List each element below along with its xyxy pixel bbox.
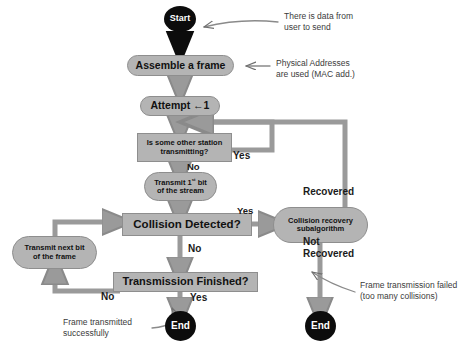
node-end-success[interactable]: End: [165, 311, 196, 341]
edge-label-finished-no: No: [101, 291, 114, 302]
annotation-assemble-note-line1: Physical Addresses: [276, 58, 355, 69]
node-attempt-label: Attempt ←1: [151, 100, 210, 111]
node-transmit-next-bit[interactable]: Transmit next bit of the frame: [12, 236, 97, 269]
edge-label-recovered: Recovered: [303, 186, 354, 197]
annotation-success-note-line2: successfully: [63, 328, 132, 339]
node-assemble-frame[interactable]: Assemble a frame: [127, 55, 234, 76]
node-transmit-first-bit-line2: of the stream: [157, 187, 204, 195]
node-assemble-frame-label: Assemble a frame: [136, 60, 226, 71]
edge-label-station-no: No: [187, 161, 200, 172]
node-transmission-finished-label: Transmission Finished?: [123, 276, 249, 288]
annotation-failure-note: Frame transmission failed (too many coll…: [360, 280, 457, 301]
annotation-failure-note-line2: (too many collisions): [360, 291, 457, 302]
node-attempt[interactable]: Attempt ←1: [140, 96, 220, 116]
annotation-start-note-line1: There is data from: [284, 11, 353, 22]
annotation-failure-note-line1: Frame transmission failed: [360, 280, 457, 291]
node-is-other-station-transmitting[interactable]: Is some other station transmitting?: [137, 133, 232, 162]
edge-label-collision-yes: Yes: [237, 205, 253, 216]
node-is-other-station-transmitting-line2: transmitting?: [161, 148, 209, 156]
annotation-success-note: Frame transmitted successfully: [63, 317, 132, 338]
edge-label-not-recovered: Not Recovered: [303, 236, 354, 259]
node-transmit-next-bit-line2: of the frame: [33, 253, 76, 261]
annotation-start-note-line2: user to send: [284, 22, 353, 33]
edge-label-not-recovered-line1: Not: [303, 236, 354, 248]
edge-label-collision-no: No: [188, 243, 201, 254]
annotation-assemble-note: Physical Addresses are used (MAC add.): [276, 58, 355, 79]
node-end-success-label: End: [171, 321, 190, 332]
flowchart-canvas: Start Assemble a frame Attempt ←1 Is som…: [0, 0, 474, 352]
edge-label-finished-yes: Yes: [190, 292, 207, 303]
annotation-start-note: There is data from user to send: [284, 11, 353, 32]
node-collision-recovery-line2: subalgorithm: [297, 225, 345, 233]
node-end-failure[interactable]: End: [305, 311, 336, 341]
node-collision-detected[interactable]: Collision Detected?: [122, 213, 252, 236]
annotation-assemble-note-line2: are used (MAC add.): [276, 69, 355, 80]
edge-label-not-recovered-line2: Recovered: [303, 248, 354, 260]
edge-label-station-yes: Yes: [233, 150, 250, 161]
node-start-label: Start: [170, 14, 191, 24]
node-transmit-first-bit[interactable]: Transmit 1st bit of the stream: [144, 172, 217, 201]
annotation-success-note-line1: Frame transmitted: [63, 317, 132, 328]
node-start[interactable]: Start: [164, 6, 196, 32]
node-transmission-finished[interactable]: Transmission Finished?: [113, 272, 258, 292]
node-collision-detected-label: Collision Detected?: [133, 218, 240, 230]
node-end-failure-label: End: [311, 321, 330, 332]
